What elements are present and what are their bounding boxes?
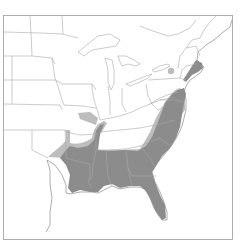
range-map [0,0,245,240]
map-background [0,0,245,240]
disjunct-population-spot [168,68,174,74]
